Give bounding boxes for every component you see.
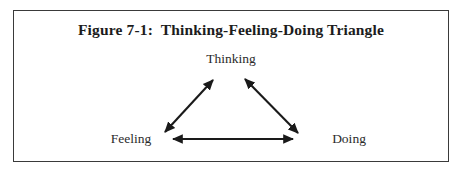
arrow-thinking-doing: [245, 79, 298, 133]
arrow-feeling-thinking: [165, 80, 213, 132]
node-label-thinking: Thinking: [206, 51, 256, 67]
node-label-feeling: Feeling: [111, 131, 152, 147]
triangle-diagram: [14, 11, 450, 163]
figure-frame: Figure 7-1: Thinking-Feeling-Doing Trian…: [13, 10, 449, 162]
node-label-doing: Doing: [332, 131, 366, 147]
